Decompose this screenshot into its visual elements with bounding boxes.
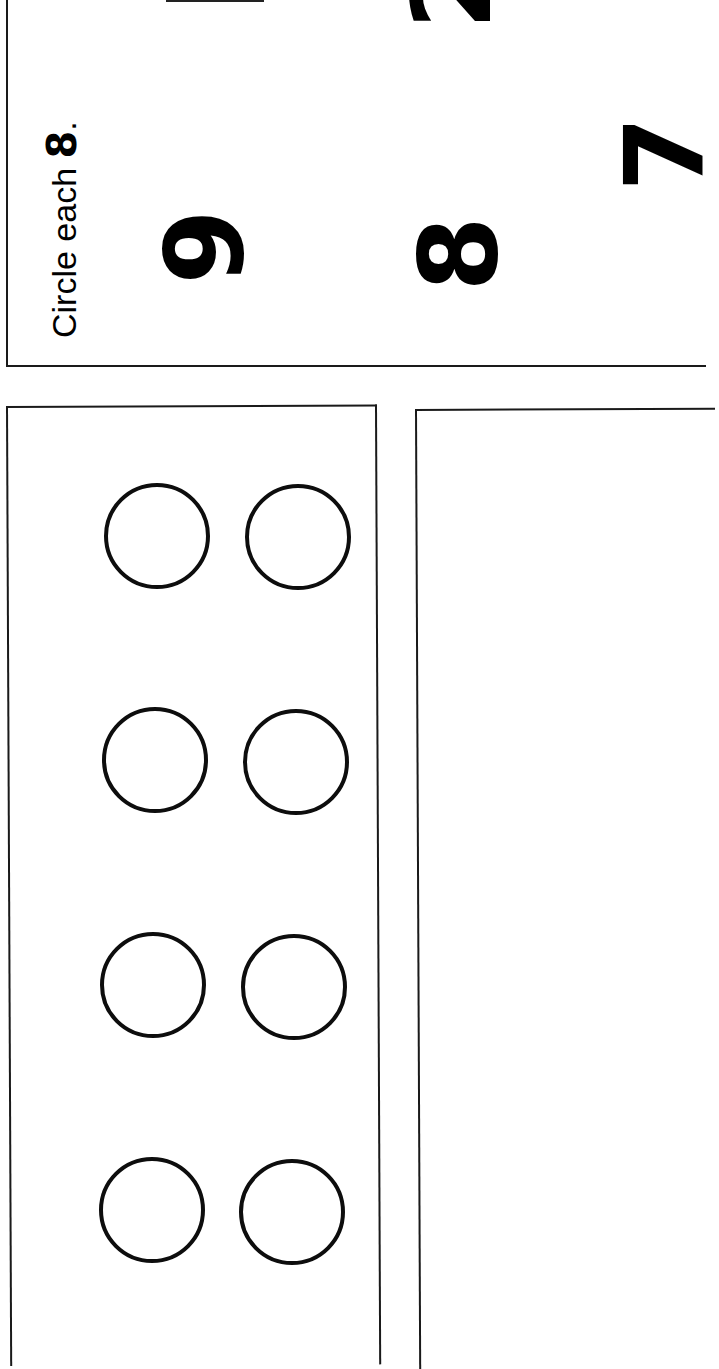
instruction-target-digit: 8 <box>39 131 85 159</box>
frame-circle[interactable] <box>241 934 347 1040</box>
frame-circle[interactable] <box>99 1157 205 1263</box>
frame-circle[interactable] <box>104 483 210 589</box>
digit-choice-eight[interactable]: 8 <box>405 209 513 299</box>
blank-answer-box[interactable] <box>415 408 719 1369</box>
digit-choice-two-partial[interactable]: 2 <box>399 0 507 37</box>
instruction-panel <box>6 0 706 367</box>
instruction-prefix: Circle each <box>45 158 83 338</box>
frame-circle[interactable] <box>245 484 351 590</box>
instruction-suffix: . <box>45 121 83 130</box>
frame-circle[interactable] <box>100 932 206 1038</box>
partial-box-edge <box>166 0 264 2</box>
instruction-text: Circle each 8. <box>42 121 84 338</box>
frame-circle[interactable] <box>102 707 208 813</box>
digit-choice-nine[interactable]: 9 <box>151 202 259 292</box>
frame-circle[interactable] <box>243 709 349 815</box>
digit-choice-seven-partial[interactable]: 7 <box>611 109 719 199</box>
frame-circle[interactable] <box>239 1159 345 1265</box>
